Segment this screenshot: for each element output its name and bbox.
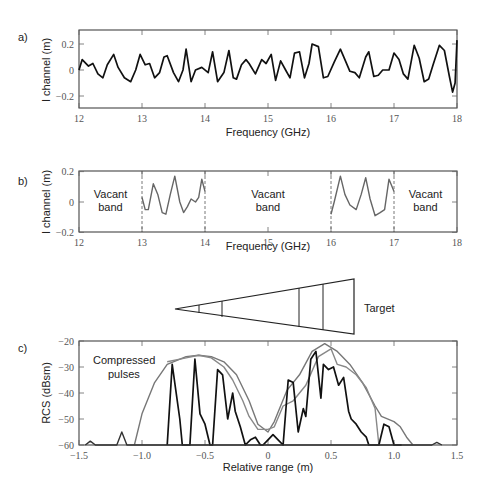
vacant-band-label: Vacant: [94, 188, 127, 200]
y-tick-label: −60: [58, 440, 74, 451]
panel-c-label: c): [18, 342, 27, 354]
panel-c: c) −1.5−1.0−0.500.51.01.5 −20−30−40−50−6…: [18, 336, 463, 474]
vacant-band-label: Vacant: [251, 188, 284, 200]
y-tick-label: −40: [58, 388, 74, 399]
target-label: Target: [364, 302, 395, 314]
data-series-line: [79, 40, 457, 92]
vacant-band-label: band: [413, 201, 437, 213]
x-tick-label: 16: [326, 113, 336, 124]
vacant-band-label: band: [256, 201, 280, 213]
y-tick-label: −30: [58, 362, 74, 373]
panel-b-x-axis-label: Frequency (GHz): [226, 240, 310, 252]
panel-b-label: b): [18, 175, 28, 187]
x-tick-label: 13: [137, 237, 147, 248]
vacant-band-label: Vacant: [409, 188, 442, 200]
panel-a-label: a): [18, 31, 28, 43]
panel-a-x-axis-label: Frequency (GHz): [226, 126, 310, 138]
data-series-line: [142, 176, 205, 214]
x-tick-label: 12: [74, 113, 84, 124]
y-tick-label: 0.2: [62, 39, 75, 50]
y-tick-label: 0.2: [62, 166, 75, 177]
x-tick-label: 14: [200, 237, 210, 248]
y-tick-label: −0.2: [56, 91, 74, 102]
x-tick-label: 15: [263, 113, 273, 124]
compressed-pulses-label-line1: Compressed: [93, 354, 155, 366]
x-tick-label: 14: [200, 113, 210, 124]
target-diagram: Target: [175, 279, 395, 334]
panel-a-y-axis-label: I channel (m): [40, 38, 52, 102]
y-tick-label: −20: [58, 336, 74, 347]
x-tick-label: 0.5: [325, 450, 338, 461]
data-series-line: [331, 176, 394, 216]
y-tick-label: −50: [58, 414, 74, 425]
panel-b-y-axis-label: I channel (m): [40, 170, 52, 234]
y-tick-label: 0: [69, 65, 74, 76]
figure: a) 12131415161718 0.20−0.2 I channel (m)…: [0, 0, 481, 490]
x-tick-label: −0.5: [196, 450, 214, 461]
y-tick-label: 0: [69, 197, 74, 208]
panel-a-series: [79, 40, 457, 92]
panel-a: a) 12131415161718 0.20−0.2 I channel (m)…: [18, 30, 462, 138]
x-tick-label: 18: [452, 237, 462, 248]
x-tick-label: 17: [389, 113, 399, 124]
data-series-line: [85, 432, 442, 445]
target-wedge-shape: [175, 279, 354, 334]
x-tick-label: 0: [266, 450, 271, 461]
panel-b: b) 12131415161718 0.20−0.2 VacantbandVac…: [18, 166, 462, 252]
x-tick-label: 17: [389, 237, 399, 248]
compressed-pulses-label-line2: pulses: [108, 368, 140, 380]
panel-c-y-axis-label: RCS (dBsm): [40, 362, 52, 424]
x-tick-label: 12: [74, 237, 84, 248]
panel-c-x-axis-label: Relative range (m): [223, 461, 313, 473]
x-tick-label: −1.0: [133, 450, 151, 461]
y-tick-label: −0.2: [56, 227, 74, 238]
panel-c-y-ticks: −20−30−40−50−60: [58, 336, 457, 451]
x-tick-label: 18: [452, 113, 462, 124]
x-tick-label: 1.0: [388, 450, 401, 461]
x-tick-label: 16: [326, 237, 336, 248]
x-tick-label: −1.5: [70, 450, 88, 461]
vacant-band-label: band: [98, 201, 122, 213]
x-tick-label: 1.5: [451, 450, 464, 461]
x-tick-label: 13: [137, 113, 147, 124]
